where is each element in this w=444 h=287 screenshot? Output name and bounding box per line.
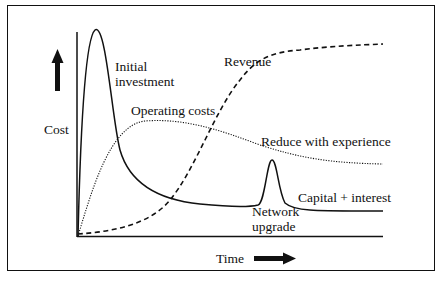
annotation-network-upgrade-2: upgrade — [252, 219, 295, 234]
annotation-reduce-with-experience: Reduce with experience — [261, 134, 391, 149]
annotation-revenue: Revenue — [224, 54, 271, 69]
x-axis-label: Time — [216, 251, 244, 266]
right-arrow-icon — [254, 253, 296, 265]
annotation-network-upgrade-1: Network — [252, 204, 299, 219]
annotation-operating-costs: Operating costs — [131, 103, 215, 118]
annotation-initial-investment-2: investment — [115, 74, 174, 89]
annotation-initial-investment-1: Initial — [115, 59, 147, 74]
up-arrow-icon — [52, 49, 64, 91]
annotation-capital-interest: Capital + interest — [298, 190, 391, 205]
y-axis-label: Cost — [44, 122, 69, 137]
